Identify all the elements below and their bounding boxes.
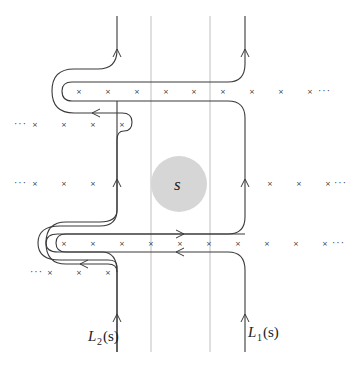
svg-text:×: × [264,240,270,248]
svg-text:L: L [87,328,96,344]
svg-text:×: × [47,269,53,277]
svg-text:(s): (s) [263,324,279,341]
svg-text:1: 1 [257,332,262,343]
svg-text:×: × [134,88,140,96]
svg-text:×: × [61,240,67,248]
disk-label: s [174,175,181,194]
svg-text:×: × [105,88,111,96]
ellipsis-right: ··· [334,177,347,188]
svg-text:×: × [267,180,273,188]
svg-text:×: × [119,240,125,248]
ellipsis-right: ··· [318,85,331,96]
svg-text:×: × [220,88,226,96]
pole-row-4: ×× ×× ×× ×× ×× ··· [61,237,345,248]
svg-text:×: × [61,121,67,129]
ellipsis-left: ··· [14,118,27,129]
svg-text:×: × [32,180,38,188]
svg-text:×: × [235,240,241,248]
svg-text:×: × [293,240,299,248]
svg-text:×: × [148,240,154,248]
svg-text:L: L [247,324,256,340]
contour-lower-hairpin [56,234,228,252]
ellipsis-left: ··· [30,266,43,277]
svg-text:×: × [325,180,331,188]
contour-L1-mid [228,101,245,234]
contour-L2-upper-hairpin [62,82,228,101]
svg-text:×: × [119,121,125,129]
svg-text:×: × [90,121,96,129]
svg-text:×: × [278,88,284,96]
svg-text:×: × [76,269,82,277]
svg-text:×: × [191,88,197,96]
svg-text:×: × [90,240,96,248]
pole-row-5: ··· ×× × [30,266,111,277]
ellipsis-right: ··· [332,237,345,248]
svg-text:×: × [163,88,169,96]
diagram-canvas: s ×× ×× ×× ×× × ··· [0,0,358,368]
contour-L1-upper [228,16,245,82]
pole-row-1: ×× ×× ×× ×× × ··· [76,85,331,96]
contour-diagram: s ×× ×× ×× ×× × ··· [0,0,358,368]
svg-text:×: × [90,180,96,188]
contour-L2-lower-loop [38,101,117,272]
svg-text:×: × [296,180,302,188]
pole-row-2: ··· ×× ×× [14,118,125,129]
svg-text:×: × [61,180,67,188]
svg-text:2: 2 [97,336,102,347]
svg-text:×: × [32,121,38,129]
svg-text:×: × [249,88,255,96]
label-L2: L 2 (s) [87,328,119,347]
svg-text:×: × [105,269,111,277]
svg-text:(s): (s) [103,328,119,345]
ellipsis-left: ··· [14,177,27,188]
svg-text:×: × [322,240,328,248]
contour-L1-lower [228,252,245,352]
svg-text:×: × [307,88,313,96]
svg-text:×: × [206,240,212,248]
svg-text:×: × [76,88,82,96]
svg-text:×: × [177,240,183,248]
label-L1: L 1 (s) [247,324,279,343]
